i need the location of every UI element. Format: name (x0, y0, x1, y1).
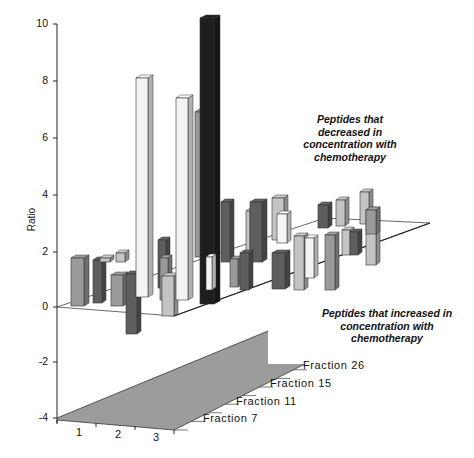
annotation-line: concentration with (275, 138, 425, 151)
bar (176, 95, 193, 300)
bar (318, 202, 332, 228)
y-tick-label: 0 (24, 300, 48, 312)
bar (221, 199, 234, 262)
z-category-label: Fraction 15 (270, 377, 332, 389)
bar (111, 272, 128, 306)
floor-plane (57, 331, 305, 430)
x-category-label: 3 (153, 431, 159, 443)
bar (206, 254, 216, 290)
bar (71, 255, 89, 306)
bar (93, 257, 106, 303)
annotation-decreased: Peptides that decreased in concentration… (275, 113, 425, 163)
z-category-label: Fraction 7 (203, 412, 258, 424)
x-category-label: 2 (115, 428, 121, 440)
bar (277, 211, 291, 243)
y-tick-label: -4 (24, 411, 48, 423)
chart-canvas (0, 0, 474, 458)
bar (100, 255, 114, 262)
annotation-line: decreased in (275, 126, 425, 139)
annotation-line: Peptides that increased in (300, 307, 474, 320)
annotation-line: concentration with (300, 320, 474, 333)
y-tick-label: 2 (24, 245, 48, 257)
y-tick-label: 4 (24, 188, 48, 200)
y-tick-label: 8 (24, 74, 48, 86)
bar (116, 250, 129, 262)
bar (336, 197, 349, 226)
y-tick-label: 10 (24, 17, 48, 29)
bar (366, 207, 380, 234)
bar (350, 229, 362, 255)
bar (240, 250, 253, 290)
bar (136, 75, 153, 297)
annotation-line: chemotherapy (300, 332, 474, 345)
y-tick-label: 6 (24, 131, 48, 143)
z-category-label: Fraction 26 (303, 359, 365, 371)
y-tick-label: -2 (24, 355, 48, 367)
bar (325, 232, 339, 290)
z-category-label: Fraction 11 (236, 395, 297, 407)
annotation-line: Peptides that (275, 113, 425, 126)
bar (162, 273, 178, 316)
x-category-label: 1 (76, 426, 82, 438)
chart-bars (71, 15, 380, 334)
bar (272, 250, 290, 289)
annotation-increased: Peptides that increased in concentration… (300, 307, 474, 345)
y-axis-label: Ratio (26, 208, 37, 231)
annotation-line: chemotherapy (275, 151, 425, 164)
bar (305, 235, 318, 278)
